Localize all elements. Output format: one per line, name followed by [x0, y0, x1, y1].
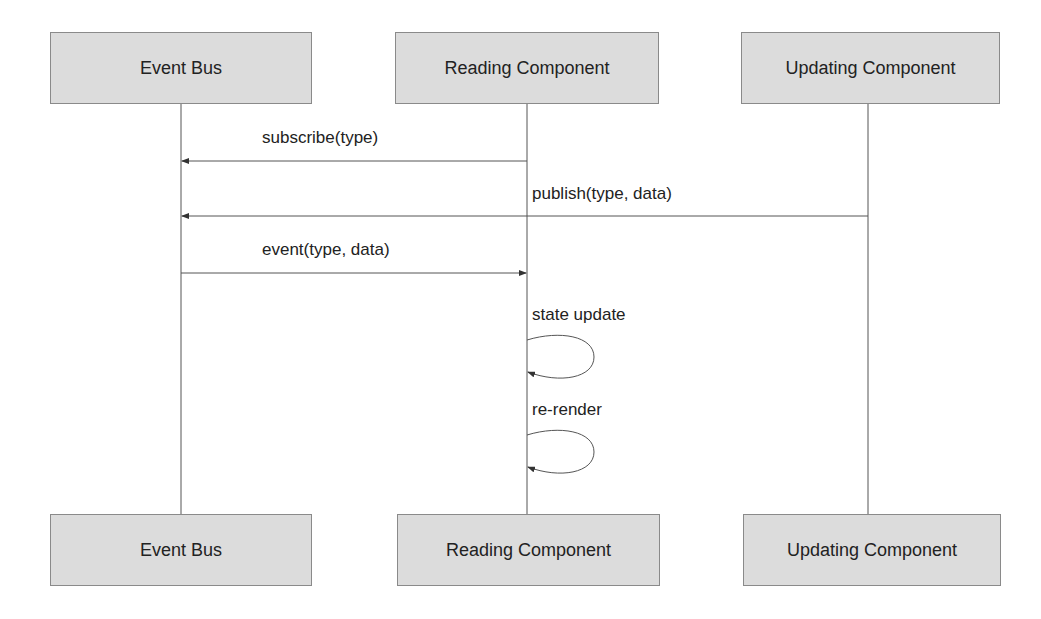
message-label-event: event(type, data) — [262, 240, 390, 260]
participant-reading-component-top: Reading Component — [395, 32, 659, 104]
loop-re-render — [527, 430, 594, 473]
participant-updating-component-top: Updating Component — [741, 32, 1000, 104]
participant-reading-component-bottom: Reading Component — [397, 514, 660, 586]
participant-event-bus-bottom: Event Bus — [50, 514, 312, 586]
message-label-publish: publish(type, data) — [532, 184, 672, 204]
message-label-re-render: re-render — [532, 400, 602, 420]
loop-state-update — [527, 335, 594, 378]
participant-event-bus-top: Event Bus — [50, 32, 312, 104]
message-label-state-update: state update — [532, 305, 626, 325]
participant-updating-component-bottom: Updating Component — [743, 514, 1001, 586]
message-label-subscribe: subscribe(type) — [262, 128, 378, 148]
